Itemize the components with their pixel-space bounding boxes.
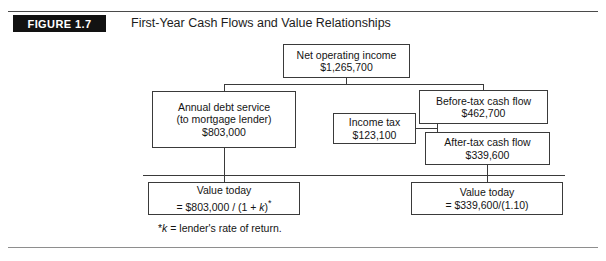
node-line-2: (to mortgage lender) (176, 113, 271, 126)
node-before-tax-cash-flow: Before-tax cash flow $462,700 (419, 90, 548, 124)
node-line-1: Income tax (349, 116, 400, 129)
node-line-1: Before-tax cash flow (436, 95, 531, 108)
connector-to-value-today-right (487, 175, 488, 182)
connector-to-annual-debt-service (224, 84, 225, 91)
node-line-3: $803,000 (202, 126, 246, 139)
node-net-operating-income: Net operating income $1,265,700 (283, 44, 410, 78)
footer-bottom-rule (8, 247, 598, 248)
node-line-1: Value today (197, 184, 252, 197)
node-line-2: $123,100 (353, 129, 397, 142)
node-value-today-left: Value today = $803,000 / (1 + k)* (148, 182, 300, 215)
figure-footnote: *k = lender's rate of return. (158, 222, 282, 234)
connector-annual-debt-down (224, 148, 225, 175)
node-after-tax-cash-flow: After-tax cash flow $339,600 (425, 132, 550, 165)
flowchart-diagram: Net operating income $1,265,700 Annual d… (0, 0, 606, 261)
node-line-2: = $339,600/(1.10) (445, 199, 528, 212)
connector-split-bar (224, 84, 484, 85)
node-line-1: Net operating income (297, 49, 397, 62)
node-line-2: $462,700 (462, 107, 506, 120)
connector-income-tax (415, 128, 438, 129)
node-line-1: After-tax cash flow (444, 136, 530, 149)
node-line-1: Value today (460, 186, 515, 199)
footnote-text: = lender's rate of return. (167, 222, 281, 234)
node-line-2: $1,265,700 (320, 61, 373, 74)
connector-to-value-today-left (224, 175, 225, 182)
value-formula-footnote-marker: * (268, 198, 272, 208)
node-line-2: $339,600 (466, 149, 510, 162)
node-line-1: Annual debt service (178, 101, 270, 114)
connector-bottom-bar (143, 175, 565, 176)
value-formula-prefix: = $803,000 / (1 + (176, 200, 259, 212)
node-income-tax: Income tax $123,100 (333, 113, 416, 144)
node-line-2: = $803,000 / (1 + k)* (176, 197, 271, 213)
node-annual-debt-service: Annual debt service (to mortgage lender)… (152, 91, 296, 148)
connector-after-tax-down (487, 165, 488, 175)
node-value-today-right: Value today = $339,600/(1.10) (411, 182, 563, 215)
